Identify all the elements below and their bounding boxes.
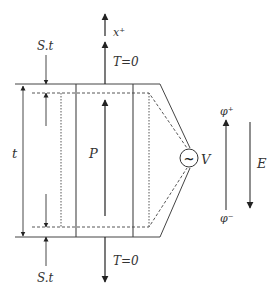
st-top-label: S.t	[37, 39, 54, 53]
phi-plus-label: φ⁺	[220, 105, 234, 118]
voltage-source-icon: ~	[180, 149, 198, 167]
voltage-label: V	[201, 152, 212, 167]
t-top-label: T=0	[113, 55, 139, 69]
svg-text:~: ~	[184, 151, 195, 166]
inner-dashed-boundary	[32, 93, 187, 227]
polarization-label: P	[88, 146, 98, 161]
piezo-diagram: ~ x⁺ T=0 T=0 S.t S.t t P V φ⁺ φ⁻ E	[0, 0, 280, 296]
plate-outline	[15, 84, 190, 237]
x-plus-label: x⁺	[113, 26, 125, 39]
st-bottom-label: S.t	[37, 271, 54, 285]
field-label: E	[256, 156, 267, 171]
thickness-label: t	[12, 146, 18, 161]
phi-minus-label: φ⁻	[220, 212, 234, 225]
t-bottom-label: T=0	[113, 254, 139, 268]
